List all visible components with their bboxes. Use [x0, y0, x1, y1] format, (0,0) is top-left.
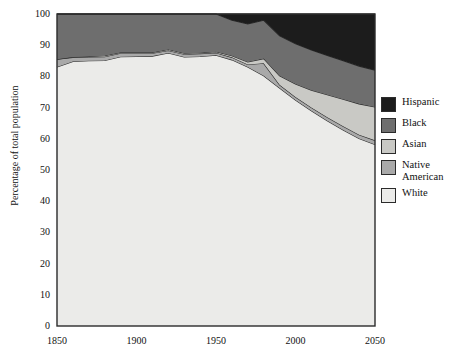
y-tick-label: 80 — [24, 71, 50, 81]
x-tick-label: 2000 — [274, 336, 318, 346]
y-tick-label: 20 — [24, 259, 50, 269]
legend-swatch-icon — [381, 118, 396, 133]
x-tick-label: 1900 — [115, 336, 159, 346]
legend-label: Asian — [402, 138, 427, 150]
legend-label: White — [402, 187, 428, 199]
y-tick-label: 100 — [24, 9, 50, 19]
legend-item: Native American — [381, 159, 467, 182]
x-tick-label: 1850 — [35, 336, 79, 346]
x-tick-label: 2050 — [353, 336, 397, 346]
legend-item: Asian — [381, 138, 467, 154]
legend-swatch-icon — [381, 188, 396, 203]
x-axis-tick-labels: 18501900195020002050 — [0, 332, 468, 352]
y-tick-label: 90 — [24, 40, 50, 50]
legend-swatch-icon — [381, 97, 396, 112]
chart-legend: HispanicBlackAsianNative AmericanWhite — [381, 96, 467, 208]
chart-figure: Percentage of total population 010203040… — [0, 0, 468, 356]
y-tick-label: 50 — [24, 165, 50, 175]
y-tick-label: 10 — [24, 290, 50, 300]
legend-swatch-icon — [381, 160, 396, 175]
legend-label: Hispanic — [402, 96, 439, 108]
legend-item: Hispanic — [381, 96, 467, 112]
legend-label: Native American — [402, 159, 443, 182]
y-axis-tick-labels: 0102030405060708090100 — [16, 0, 50, 356]
y-tick-label: 40 — [24, 196, 50, 206]
y-tick-label: 70 — [24, 103, 50, 113]
legend-swatch-icon — [381, 139, 396, 154]
x-tick-label: 1950 — [194, 336, 238, 346]
legend-item: Black — [381, 117, 467, 133]
legend-label: Black — [402, 117, 427, 129]
y-tick-label: 60 — [24, 134, 50, 144]
y-tick-label: 30 — [24, 227, 50, 237]
legend-item: White — [381, 187, 467, 203]
y-tick-label: 0 — [24, 321, 50, 331]
